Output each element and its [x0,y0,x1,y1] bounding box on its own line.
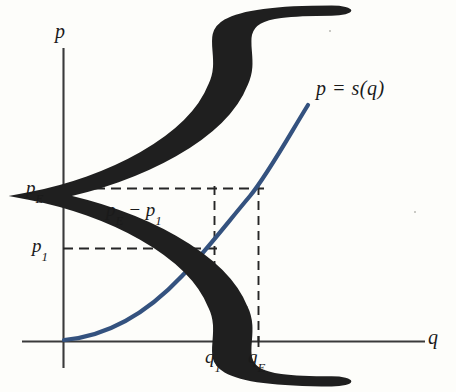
price-difference-term2-base: p [146,199,156,220]
y-tick-label-p1: p1 [32,236,48,255]
price-difference-minus-sign: − [123,199,145,220]
x-tick-label-q1: q1 [205,347,221,366]
x-tick-label-q1-base: q [205,346,215,367]
x-tick-label-qE-base: q [248,346,258,367]
y-tick-label-p1-subscript: 1 [42,249,48,264]
y-axis-label: p [55,21,65,41]
y-tick-label-pE: pE [26,178,43,197]
scan-speck-right [414,211,416,213]
price-difference-brace [0,0,456,392]
y-tick-label-pE-subscript: E [36,191,44,206]
x-axis-label: q [428,327,438,347]
price-difference-label: pE − p1 [106,200,162,219]
price-difference-term1-base: p [106,199,116,220]
x-tick-label-q1-subscript: 1 [215,360,221,375]
curve-equation-label: p = s(q) [316,78,385,98]
scan-speck-top [329,30,331,32]
y-tick-label-p1-base: p [32,235,42,256]
price-difference-term1-subscript: E [116,213,124,228]
supply-curve-figure: p q p = s(q) pE p1 q1 qE pE − p1 [0,0,456,392]
y-tick-label-pE-base: p [26,177,36,198]
price-difference-term2-subscript: 1 [155,213,161,228]
x-tick-label-qE-subscript: E [258,360,266,375]
x-tick-label-qE: qE [248,347,265,366]
